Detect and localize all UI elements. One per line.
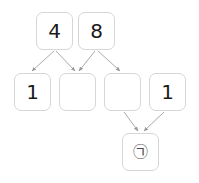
node-label: 4 (48, 21, 61, 41)
edge-m4-to-b1 (144, 112, 164, 131)
node-middle-2-blank[interactable] (59, 73, 96, 111)
node-bottom-circled-letter[interactable]: ㉠ (122, 133, 159, 171)
node-middle-4[interactable]: 1 (149, 73, 186, 111)
node-middle-1[interactable]: 1 (14, 73, 51, 111)
node-label: 1 (161, 82, 174, 102)
diagram-canvas: 4 8 1 1 ㉠ (0, 0, 199, 183)
edge-group (32, 51, 164, 131)
node-label: 1 (26, 82, 39, 102)
node-label: 8 (90, 21, 103, 41)
edge-m3-to-b1 (124, 112, 138, 131)
edge-n2-to-m3 (98, 51, 120, 71)
edge-n1-to-m1 (32, 51, 54, 71)
circled-letter-glyph: ㉠ (133, 145, 148, 160)
edge-n1-to-m2 (56, 51, 75, 71)
node-top-4[interactable]: 4 (36, 12, 73, 50)
node-top-8[interactable]: 8 (78, 12, 115, 50)
node-middle-3-blank[interactable] (104, 73, 141, 111)
edge-n2-to-m2 (79, 51, 95, 71)
